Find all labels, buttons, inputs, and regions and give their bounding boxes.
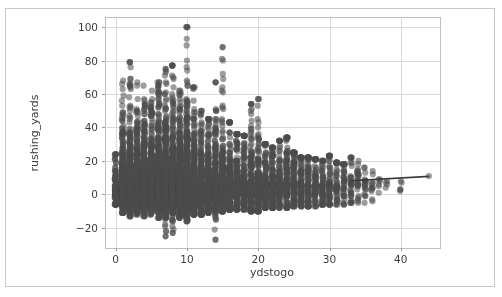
x-tick-label: 30 (323, 253, 336, 265)
y-tick-label: 100 (62, 21, 98, 33)
y-tick-label: 60 (62, 88, 98, 100)
x-tick-label: 10 (180, 253, 193, 265)
y-tick-label: −20 (62, 222, 98, 234)
x-tick-label: 0 (112, 253, 119, 265)
y-tick-label: 80 (62, 55, 98, 67)
y-axis-label: rushing_yards (28, 95, 41, 172)
y-tick-label: 20 (62, 155, 98, 167)
x-tick-label: 40 (394, 253, 407, 265)
y-tick-label: 0 (62, 188, 98, 200)
x-axis-label: ydstogo (250, 266, 294, 279)
x-tick-label: 20 (252, 253, 265, 265)
y-tick-label: 40 (62, 121, 98, 133)
